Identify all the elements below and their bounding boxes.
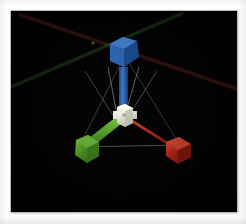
- world-axis-green-line: [11, 13, 183, 87]
- viewport-canvas[interactable]: [11, 11, 237, 212]
- center-handle-dot: [122, 113, 125, 116]
- center-handle-shadow: [125, 108, 133, 127]
- app-root: [0, 0, 246, 224]
- perspective-viewport[interactable]: [11, 11, 237, 212]
- green-axis-handle[interactable]: [75, 117, 121, 163]
- red-axis-handle[interactable]: [125, 115, 191, 164]
- world-axis-crossing-node: [91, 41, 94, 44]
